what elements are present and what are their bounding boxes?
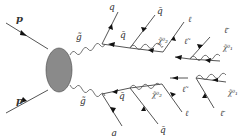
label-qbar-bottom2: q̄ [160,125,166,135]
antiquark-line-top [130,15,155,48]
diagram-canvas: p p g̃ g̃ q q̄ q̄ χ̃⁰₂ ℓ ℓ̃ ℓ̄ χ̃⁰₁ q q̄… [0,0,245,136]
lepton-line-bottom [162,84,182,112]
arrow-icon [108,42,115,47]
label-chi2-top: χ̃⁰₂ [157,37,168,45]
arrow-icon [141,27,147,32]
neutralino1-core-bottom [196,78,226,82]
label-qbar-top2: q̄ [157,6,163,16]
arrow-icon [212,78,218,82]
gluino-line-bottom [70,85,105,97]
arrow-icon [172,76,178,80]
label-gluino-top: g̃ [76,32,82,42]
label-lbar-top: ℓ̄ [224,26,229,35]
label-q-bottom: q [111,128,117,136]
label-gluino-bottom: g̃ [80,96,86,106]
arrow-icon [108,24,113,30]
feynman-diagram: p p g̃ g̃ q q̄ q̄ χ̃⁰₂ ℓ ℓ̃ ℓ̄ χ̃⁰₁ q q̄… [0,0,245,136]
squark-line-top [102,44,130,48]
label-qbar-top: q̄ [120,30,126,40]
neutralino2-core-top [130,48,163,52]
label-qbar-bottom: q̄ [119,91,125,101]
gluino-line-top [70,43,105,55]
label-chi1-top: χ̃⁰₁ [222,44,233,52]
arrow-icon [175,55,182,60]
incoming-proton-bottom [6,90,48,113]
arrow-icon [205,58,211,63]
arrow-icon [20,30,27,36]
label-slepton-bottom: ℓ̃ [182,85,189,94]
label-chi1-bottom: χ̃⁰₁ [227,89,238,97]
label-l-top: ℓ [188,15,192,24]
arrow-icon [141,106,146,111]
label-proton-bottom: p [16,95,23,106]
interaction-blob [46,48,72,92]
arrow-icon [110,107,116,113]
label-q-top: q [109,2,115,12]
label-proton-top: p [16,13,23,24]
label-chi2-bottom: χ̃⁰₂ [151,91,162,99]
label-l-bottom: ℓ [185,109,189,118]
label-lbar-bottom: ℓ̄ [220,109,225,118]
label-slepton-top: ℓ̃ [184,37,191,46]
